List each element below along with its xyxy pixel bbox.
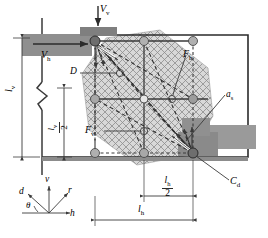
label-lv-half-den: 2 xyxy=(60,125,69,130)
axis-label-v: v xyxy=(45,174,49,184)
horizontal-load-plate xyxy=(22,34,92,56)
anchor-node-top-right xyxy=(189,37,198,46)
axis-label-r: r xyxy=(68,185,72,195)
axis-r xyxy=(49,193,68,213)
anchor-node-top-center xyxy=(140,37,149,46)
label-vh-sub: h xyxy=(47,55,51,63)
corner-bearing-plate-upper xyxy=(182,118,210,136)
figure-root: Vv Vh D Fh Fv as Cd lv lv 2 lh 2 lh d v … xyxy=(0,0,268,238)
label-lh-half-num: lh xyxy=(165,176,171,187)
axis-label-theta: θ xyxy=(26,200,30,210)
anchor-node-mid-center xyxy=(140,95,148,103)
label-vh: Vh xyxy=(41,49,51,63)
vertical-load-plate xyxy=(80,27,117,36)
label-vv: Vv xyxy=(100,3,110,17)
label-fh-sub: h xyxy=(189,54,193,62)
label-cd: Cd xyxy=(230,175,240,189)
label-cd-sub: d xyxy=(237,181,241,189)
label-lv-sub: v xyxy=(9,86,17,90)
anchor-node-mid-right xyxy=(189,95,198,104)
label-lv-half-num: lv xyxy=(47,125,58,131)
anchor-node-bot-left xyxy=(91,149,100,158)
axis-d xyxy=(28,194,49,213)
axis-label-h: h xyxy=(70,208,75,218)
theta-arc xyxy=(34,206,38,212)
break-symbol xyxy=(37,82,47,110)
anchor-node-mid-left xyxy=(91,95,100,104)
label-fv-sub: v xyxy=(91,130,95,138)
label-lh-half: lh 2 xyxy=(162,176,173,199)
anchor-node-top-left xyxy=(90,36,100,46)
label-lv-half: lv 2 xyxy=(47,122,69,133)
anchor-node-bot-center xyxy=(140,149,149,158)
label-d: D xyxy=(70,66,77,76)
label-lh-sub: h xyxy=(141,209,145,217)
label-lh-half-den: 2 xyxy=(165,189,170,199)
diagram-canvas xyxy=(0,0,268,238)
label-fv: Fv xyxy=(85,124,95,138)
label-vv-sub: v xyxy=(106,9,110,17)
label-fh: Fh xyxy=(183,48,193,62)
label-lh: lh xyxy=(138,203,144,217)
label-as: as xyxy=(226,89,233,101)
label-lv: lv xyxy=(3,86,17,92)
label-as-sub: s xyxy=(231,94,234,101)
axis-label-d: d xyxy=(19,186,24,196)
